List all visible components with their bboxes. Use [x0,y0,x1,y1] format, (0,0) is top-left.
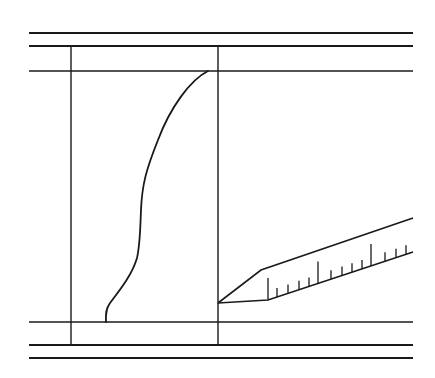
flow-profile-curve [106,71,208,322]
diagram-canvas [0,0,435,378]
probe-ruler-icon [218,218,413,303]
vertical-section-lines [71,46,218,345]
horizontal-boundary-lines [29,33,413,358]
probe-tick-marks [268,244,406,300]
probe-upper-edge [218,218,413,303]
probe-lower-edge [218,252,413,303]
channel-diagram [0,0,435,378]
